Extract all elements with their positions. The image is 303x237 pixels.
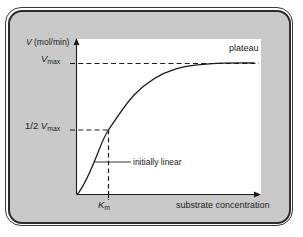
y-axis-label: V (mol/min) bbox=[26, 38, 69, 47]
enzyme-kinetics-figure: V (mol/min) Vmax 1/2 Vmax Km substrate c… bbox=[0, 0, 303, 237]
plateau-annotation: plateau bbox=[229, 44, 259, 53]
michaelis-menten-curve bbox=[78, 63, 255, 194]
initially-linear-annotation: initially linear bbox=[133, 158, 182, 167]
y-axis-arrowhead bbox=[74, 38, 80, 45]
y-tick-label-vmax: Vmax bbox=[41, 54, 60, 66]
x-axis-arrowhead bbox=[254, 192, 261, 198]
y-tick-label-half-vmax: 1/2 Vmax bbox=[25, 121, 60, 133]
x-tick-label-km: Km bbox=[98, 200, 110, 212]
x-axis-label: substrate concentration bbox=[176, 201, 270, 210]
